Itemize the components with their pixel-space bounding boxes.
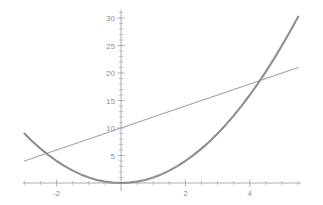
y-tick-label: 5 xyxy=(111,152,116,161)
series-tangent-line xyxy=(24,68,298,162)
chart-figure: -224 51015202530 xyxy=(0,0,323,205)
x-tick-label: -2 xyxy=(53,189,61,198)
x-axis: -224 xyxy=(23,180,302,199)
y-tick-label: 30 xyxy=(106,14,115,23)
series-parabola xyxy=(24,17,298,183)
y-tick-label: 20 xyxy=(106,69,115,78)
y-axis: 51015202530 xyxy=(106,10,124,192)
x-tick-label: 4 xyxy=(248,189,253,198)
data-series-group xyxy=(24,17,298,183)
y-tick-label: 15 xyxy=(106,97,115,106)
x-tick-label: 2 xyxy=(183,189,188,198)
y-axis-tick-labels: 51015202530 xyxy=(106,14,115,161)
chart-canvas: -224 51015202530 xyxy=(0,0,323,205)
x-axis-tick-labels: -224 xyxy=(53,189,253,198)
y-tick-label: 25 xyxy=(106,42,115,51)
